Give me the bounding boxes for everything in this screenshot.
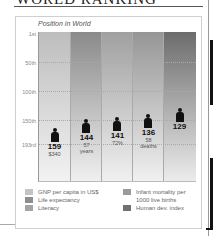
- person-icon: [50, 128, 60, 142]
- column-life-expectancy: [71, 32, 102, 181]
- rank-value: 136: [133, 128, 164, 137]
- ytick-100th: 100th: [22, 89, 36, 95]
- legend-swatch: [123, 189, 131, 195]
- rank-detail: years: [71, 148, 102, 154]
- rank-value: 144: [71, 133, 102, 142]
- plot-area: 159 $340 144 57 years 141 72% 136 58 dea…: [38, 32, 196, 182]
- bottom-divider: [0, 224, 16, 225]
- ytick-50th: 50th: [25, 60, 36, 66]
- rank-value: 159: [39, 142, 70, 151]
- gridline-50th: [39, 62, 196, 63]
- person-icon: [81, 119, 91, 133]
- rank-detail: $340: [39, 151, 70, 157]
- column-literacy: [102, 32, 133, 181]
- ytick-1st: 1st: [29, 31, 36, 37]
- page-edge-rule: [208, 0, 209, 236]
- column-infant-mortality: [133, 32, 164, 181]
- legend-swatch: [25, 205, 33, 211]
- rank-detail: deaths: [133, 143, 164, 149]
- title-divider: [14, 6, 203, 7]
- page-edge-bar-bottom: [210, 158, 213, 230]
- person-icon: [175, 108, 185, 122]
- chart-title: Position in World: [38, 20, 91, 27]
- rank-detail: 72%: [102, 140, 133, 146]
- column-gnp: [39, 32, 71, 181]
- legend-swatch: [123, 205, 131, 211]
- legend-swatch: [25, 197, 33, 203]
- person-icon: [112, 117, 122, 131]
- ytick-193rd: 193rd: [22, 142, 36, 148]
- page-edge-bar-top: [210, 40, 213, 105]
- column-human-dev-index: [164, 32, 196, 181]
- rank-value: 129: [164, 122, 195, 131]
- ytick-150th: 150th: [22, 118, 36, 124]
- person-icon: [143, 114, 153, 128]
- rank-value: 141: [102, 131, 133, 140]
- page-edge-hook: [206, 228, 213, 230]
- gridline-100th: [39, 91, 196, 92]
- legend-swatch: [25, 189, 33, 195]
